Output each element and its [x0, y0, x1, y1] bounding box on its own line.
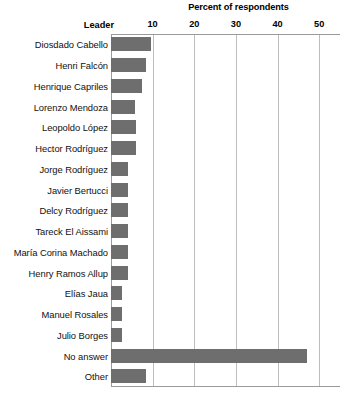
category-label-1: Henri Falcón [55, 60, 108, 71]
x-tick-label-10: 10 [148, 19, 158, 29]
bar-track [111, 159, 340, 180]
bar-rows: Diosdado CabelloHenri FalcónHenrique Cap… [0, 34, 357, 387]
category-label-2: Henrique Capriles [34, 80, 108, 91]
category-label-12: Elías Jaua [65, 288, 108, 299]
bar-row: Other [0, 366, 357, 387]
x-tick-label-50: 50 [314, 19, 324, 29]
bar-0 [111, 37, 151, 51]
bar-chart: Percent of respondents Leader 1020304050… [0, 0, 357, 404]
x-axis-tick-labels: 1020304050 [0, 19, 357, 33]
category-label-8: Delcy Rodríguez [39, 205, 108, 216]
bar-row: Hector Rodríguez [0, 138, 357, 159]
bar-row: Henry Ramos Allup [0, 262, 357, 283]
bar-10 [111, 245, 128, 259]
bar-6 [111, 162, 128, 176]
bar-row: Lorenzo Mendoza [0, 96, 357, 117]
category-label-7: Javier Bertucci [47, 184, 108, 195]
bar-12 [111, 286, 122, 300]
bar-track [111, 262, 340, 283]
bar-row: Manuel Rosales [0, 304, 357, 325]
bar-row: Henrique Capriles [0, 76, 357, 97]
bar-row: Jorge Rodríguez [0, 159, 357, 180]
bar-11 [111, 266, 128, 280]
bar-track [111, 366, 340, 387]
category-label-11: Henry Ramos Allup [29, 267, 108, 278]
bar-row: Elías Jaua [0, 283, 357, 304]
x-tick-label-20: 20 [189, 19, 199, 29]
bar-row: Javier Bertucci [0, 179, 357, 200]
bar-track [111, 138, 340, 159]
chart-axis-title: Percent of respondents [120, 2, 357, 12]
bar-16 [111, 369, 146, 383]
category-label-6: Jorge Rodríguez [39, 163, 108, 174]
bar-row: Leopoldo López [0, 117, 357, 138]
bar-track [111, 96, 340, 117]
x-tick-label-30: 30 [231, 19, 241, 29]
category-label-4: Leopoldo López [42, 122, 108, 133]
category-label-5: Hector Rodríguez [35, 143, 108, 154]
bar-track [111, 55, 340, 76]
bar-4 [111, 120, 136, 134]
category-label-16: Other [85, 371, 108, 382]
bar-row: Delcy Rodríguez [0, 200, 357, 221]
bar-15 [111, 349, 307, 363]
bar-track [111, 179, 340, 200]
bar-row: Henri Falcón [0, 55, 357, 76]
bar-3 [111, 100, 135, 114]
bar-track [111, 76, 340, 97]
bar-track [111, 304, 340, 325]
bar-track [111, 345, 340, 366]
category-label-3: Lorenzo Mendoza [34, 101, 108, 112]
bar-track [111, 117, 340, 138]
bar-row: Julio Borges [0, 325, 357, 346]
bar-row: No answer [0, 345, 357, 366]
category-label-13: Manuel Rosales [41, 309, 108, 320]
bar-9 [111, 224, 128, 238]
category-label-0: Diosdado Cabello [35, 39, 108, 50]
bar-7 [111, 183, 128, 197]
bar-track [111, 221, 340, 242]
bar-row: María Corina Machado [0, 242, 357, 263]
bar-track [111, 325, 340, 346]
category-label-10: María Corina Machado [14, 246, 108, 257]
bar-row: Tareck El Aissami [0, 221, 357, 242]
bar-14 [111, 328, 122, 342]
bar-5 [111, 141, 136, 155]
bar-1 [111, 58, 146, 72]
bar-row: Diosdado Cabello [0, 34, 357, 55]
bar-track [111, 242, 340, 263]
bar-8 [111, 203, 128, 217]
category-label-9: Tareck El Aissami [35, 226, 108, 237]
bar-track [111, 34, 340, 55]
bar-2 [111, 79, 142, 93]
bar-track [111, 283, 340, 304]
category-label-15: No answer [64, 350, 108, 361]
bar-13 [111, 307, 122, 321]
x-tick-label-40: 40 [272, 19, 282, 29]
bar-track [111, 200, 340, 221]
category-label-14: Julio Borges [57, 329, 108, 340]
